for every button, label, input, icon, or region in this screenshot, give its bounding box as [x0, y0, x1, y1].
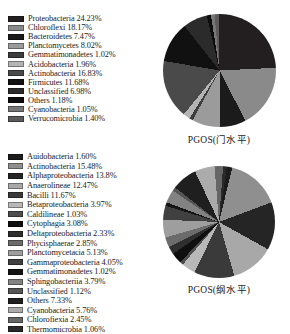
class-legend: Auidobacteria 1.60%Actinobacteria 15.48%… [0, 152, 148, 334]
class-legend-item: Sphingobacteriia 3.79% [8, 277, 148, 287]
phylum-legend-label: Firmicutes 11.68% [28, 78, 89, 87]
class-legend-label: Planctomycetacia 5.13% [27, 248, 108, 257]
class-legend-label: Gammaproteobacteria 4.05% [27, 258, 123, 267]
class-legend-label: Unclassified 1.12% [27, 287, 91, 296]
class-legend-item: Cyanobacteria 5.76% [8, 306, 148, 316]
phylum-legend-label: Others 1.18% [28, 96, 72, 105]
class-pie-chart [163, 166, 275, 278]
phylum-legend-item: Firmicutes 11.68% [8, 78, 148, 87]
phylum-legend-item: Cyanobacteria 1.05% [8, 105, 148, 114]
phylum-legend-swatch-icon [8, 43, 24, 49]
class-legend-swatch-icon [8, 183, 23, 189]
phylum-legend-item: Actinobacteria 16.83% [8, 69, 148, 78]
class-legend-swatch-icon [8, 221, 23, 227]
class-legend-swatch-icon [8, 326, 23, 332]
phylum-legend-label: Verrucomicrobia 1.40% [28, 114, 105, 123]
class-legend-swatch-icon [8, 231, 23, 237]
class-legend-swatch-icon [8, 250, 23, 256]
class-legend-label: Auidobacteria 1.60% [27, 152, 96, 161]
class-legend-swatch-icon [8, 317, 23, 323]
phylum-legend-label: Planctomycetes 8.02% [28, 41, 102, 50]
phylum-chart-caption: PGOS(门水平) [188, 132, 250, 146]
class-legend-label: Others 7.33% [27, 296, 72, 305]
class-legend-label: Deltaproteobacteria 2.33% [27, 229, 114, 238]
class-legend-label: Bacilli 11.67% [27, 191, 76, 200]
phylum-level-figure: Proteobacteria 24.23%Chloroflexi 18.17%B… [0, 14, 290, 159]
phylum-legend-label: Unclassified 6.98% [28, 87, 91, 96]
class-legend-label: Cyanobacteria 5.76% [27, 306, 97, 315]
class-legend-swatch-icon [8, 307, 23, 313]
phylum-legend-label: Chloroflexi 18.17% [28, 23, 92, 32]
class-legend-item: Unclassified 1.12% [8, 286, 148, 296]
class-legend-swatch-icon [8, 154, 23, 160]
class-legend-label: Actinobacteria 15.48% [27, 162, 102, 171]
class-legend-label: Chlorofiexia 2.45% [27, 315, 91, 324]
class-legend-swatch-icon [8, 240, 23, 246]
class-legend-label: Sphingobacteriia 3.79% [27, 277, 105, 286]
class-legend-swatch-icon [8, 202, 23, 208]
phylum-legend-label: Actinobacteria 16.83% [28, 69, 102, 78]
phylum-legend-label: Gemmatimonadetes 1.02% [28, 50, 116, 59]
phylum-chart-area: PGOS(门水平) [148, 14, 290, 146]
class-legend-swatch-icon [8, 192, 23, 198]
class-legend-item: Betaproteobacteria 3.97% [8, 200, 148, 210]
class-legend-label: Phycisphaerae 2.85% [27, 239, 97, 248]
phylum-legend-item: Planctomycetes 8.02% [8, 41, 148, 50]
class-legend-label: Thermomicrobia 1.06% [27, 325, 105, 334]
class-legend-label: Alphaproteobacteria 13.8% [27, 171, 117, 180]
class-chart-area: PGOS(纲水平) [148, 152, 290, 296]
class-legend-swatch-icon [8, 259, 23, 265]
phylum-legend-swatch-icon [8, 25, 24, 31]
phylum-legend-item: Bacteroidetes 7.47% [8, 32, 148, 41]
class-legend-label: Cytophagia 3.08% [27, 219, 88, 228]
class-legend-item: Caldilineae 1.03% [8, 210, 148, 220]
phylum-legend-item: Proteobacteria 24.23% [8, 14, 148, 23]
phylum-legend-swatch-icon [8, 70, 24, 76]
class-chart-caption: PGOS(纲水平) [188, 282, 250, 296]
phylum-pie-chart [163, 14, 276, 127]
phylum-legend-swatch-icon [8, 52, 24, 58]
class-legend-item: Deltaproteobacteria 2.33% [8, 229, 148, 239]
class-legend-item: Chlorofiexia 2.45% [8, 315, 148, 325]
class-legend-item: Anaerolineae 12.47% [8, 181, 148, 191]
class-legend-swatch-icon [8, 298, 23, 304]
phylum-legend-swatch-icon [8, 116, 24, 122]
class-legend-swatch-icon [8, 288, 23, 294]
class-legend-item: Bacilli 11.67% [8, 190, 148, 200]
phylum-legend: Proteobacteria 24.23%Chloroflexi 18.17%B… [0, 14, 148, 123]
class-legend-swatch-icon [8, 163, 23, 169]
phylum-legend-item: Unclassified 6.98% [8, 87, 148, 96]
class-legend-label: Anaerolineae 12.47% [27, 181, 98, 190]
phylum-legend-item: Chloroflexi 18.17% [8, 23, 148, 32]
class-legend-item: Alphaproteobacteria 13.8% [8, 171, 148, 181]
phylum-legend-swatch-icon [8, 106, 24, 112]
phylum-legend-item: Acidobacteria 1.96% [8, 59, 148, 68]
class-legend-item: Planctomycetacia 5.13% [8, 248, 148, 258]
class-legend-item: Cytophagia 3.08% [8, 219, 148, 229]
phylum-legend-label: Cyanobacteria 1.05% [28, 105, 98, 114]
phylum-legend-swatch-icon [8, 61, 24, 67]
class-legend-item: Phycisphaerae 2.85% [8, 238, 148, 248]
phylum-legend-swatch-icon [8, 97, 24, 103]
phylum-legend-swatch-icon [8, 79, 24, 85]
class-legend-label: Gemmatimonadetes 1.02% [27, 267, 116, 276]
class-legend-item: Others 7.33% [8, 296, 148, 306]
phylum-legend-label: Proteobacteria 24.23% [28, 14, 101, 23]
phylum-legend-label: Acidobacteria 1.96% [28, 60, 96, 69]
class-legend-swatch-icon [8, 173, 23, 179]
class-legend-item: Gemmatimonadetes 1.02% [8, 267, 148, 277]
class-legend-item: Gammaproteobacteria 4.05% [8, 258, 148, 268]
phylum-legend-item: Others 1.18% [8, 96, 148, 105]
class-legend-swatch-icon [8, 211, 23, 217]
class-legend-swatch-icon [8, 279, 23, 285]
phylum-legend-label: Bacteroidetes 7.47% [28, 32, 95, 41]
class-legend-item: Actinobacteria 15.48% [8, 162, 148, 172]
class-legend-label: Caldilineae 1.03% [27, 210, 87, 219]
class-legend-item: Thermomicrobia 1.06% [8, 325, 148, 334]
phylum-legend-item: Gemmatimonadetes 1.02% [8, 50, 148, 59]
class-legend-swatch-icon [8, 269, 23, 275]
class-level-figure: Auidobacteria 1.60%Actinobacteria 15.48%… [0, 152, 290, 331]
class-legend-item: Auidobacteria 1.60% [8, 152, 148, 162]
phylum-legend-swatch-icon [8, 88, 24, 94]
phylum-legend-swatch-icon [8, 34, 24, 40]
